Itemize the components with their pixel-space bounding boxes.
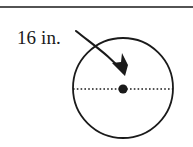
diagram-canvas: 16 in. xyxy=(0,0,193,147)
circle-diagram-figure: 16 in. xyxy=(0,0,193,147)
measurement-label: 16 in. xyxy=(17,27,61,48)
center-point-dot xyxy=(118,84,127,93)
page-background xyxy=(0,0,193,147)
